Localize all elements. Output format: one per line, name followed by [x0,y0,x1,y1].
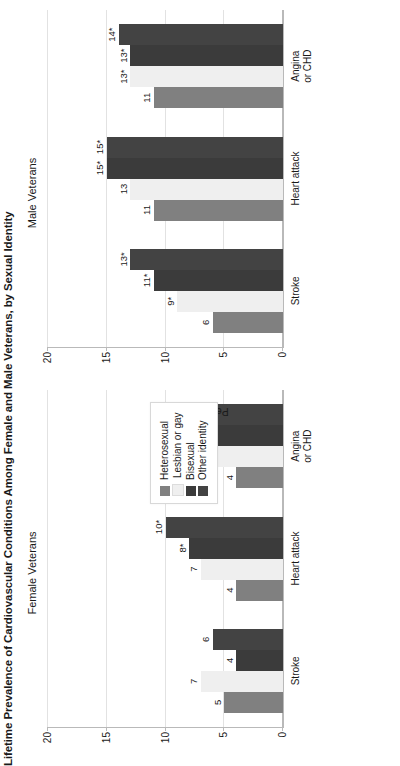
panel-male-veterans: Male Veterans Percentage 0510152069*11*1… [26,4,378,382]
bar[interactable] [119,24,284,45]
legend-swatch-icon [186,486,196,496]
legend-swatch-icon [160,486,170,496]
bar-value-label: 5 [213,700,223,705]
bar-slot: 13* [48,45,283,66]
bar[interactable] [107,158,283,179]
bar-slot: 15* [48,158,283,179]
y-tick-20: 20 [43,732,53,743]
y-tick-10: 10 [161,352,171,363]
y-tick-5: 5 [219,732,229,738]
legend-label: Heterosexual [160,421,170,480]
legend-item[interactable]: Bisexual [186,412,196,496]
bar-value-label: 13* [119,70,129,84]
bar[interactable] [154,87,283,108]
bar-groups: 69*11*13*Stroke111315*15*Heart attack111… [48,10,283,347]
bar-value-label: 7 [189,566,199,571]
bar[interactable] [154,270,283,291]
y-tick-mark-10 [165,727,166,731]
bar-slot: 7 [48,559,283,580]
bar-value-label: 10* [154,520,164,534]
bar[interactable] [154,200,283,221]
bar-group: 69*11*13*Stroke [48,235,283,347]
bar-slot: 4 [48,650,283,671]
bar[interactable] [236,650,283,671]
category-label: Angina or CHD [290,50,313,83]
bar[interactable] [236,467,283,488]
bar-slot: 8* [48,538,283,559]
bar-slot: 13* [48,249,283,270]
y-tick-mark-5 [223,727,224,731]
bar-value-label: 11* [142,274,152,288]
bar[interactable] [130,45,283,66]
bar-value-label: 15* [95,140,105,154]
category-label: Heart attack [290,532,302,586]
legend-label: Bisexual [186,442,196,480]
bar[interactable] [213,312,284,333]
y-tick-mark-20 [47,727,48,731]
y-tick-0: 0 [278,352,288,358]
bar-slot: 5 [48,692,283,713]
bar-slot: 6 [48,629,283,650]
bar[interactable] [130,179,283,200]
y-tick-5: 5 [219,352,229,358]
figure-canvas: Lifetime Prevalence of Cardiovascular Co… [0,0,400,766]
bar-slot: 14* [48,24,283,45]
y-tick-mark-15 [106,347,107,351]
bar-group: 478*10*Heart attack [48,502,283,614]
bar-slot: 11 [48,200,283,221]
bar-slot: 9* [48,291,283,312]
bar-value-label: 11 [142,93,152,103]
bar[interactable] [177,291,283,312]
bar-slot: 4 [48,580,283,601]
bar[interactable] [201,671,283,692]
plot-area-male: 0510152069*11*13*Stroke111315*15*Heart a… [48,10,284,348]
bar[interactable] [213,629,284,650]
legend-label: Lesbian or gay [173,412,183,478]
bar-value-label: 6 [201,320,211,325]
bar-slot: 11* [48,270,283,291]
bar-slot: 7 [48,671,283,692]
bar-slot: 13 [48,179,283,200]
legend-item[interactable]: Other identity [198,412,208,496]
legend-swatch-icon [172,484,184,496]
bar-value-label: 8* [178,544,188,553]
bar[interactable] [166,517,284,538]
figure-title: Lifetime Prevalence of Cardiovascular Co… [2,0,14,766]
bar[interactable] [130,66,283,87]
bar-group: 5746Stroke [48,615,283,727]
bar-value-label: 6 [201,637,211,642]
bar[interactable] [201,559,283,580]
legend-swatch-icon [198,486,208,496]
y-tick-mark-15 [106,727,107,731]
chart-viewport: Lifetime Prevalence of Cardiovascular Co… [0,0,400,766]
bar-slot: 11 [48,87,283,108]
category-label: Stroke [290,276,302,305]
y-tick-10: 10 [161,732,171,743]
bar-value-label: 11 [142,205,152,215]
bar-group: 1113*13*14*Angina or CHD [48,10,283,122]
category-label: Angina or CHD [290,430,313,463]
bar-slot: 15* [48,137,283,158]
bar-value-label: 13* [119,49,129,63]
bar-value-label: 15* [95,161,105,175]
y-tick-15: 15 [102,352,112,363]
y-tick-mark-5 [223,347,224,351]
category-label: Heart attack [290,152,302,206]
legend-item[interactable]: Lesbian or gay [172,412,184,496]
bar-value-label: 13 [119,184,129,195]
y-tick-15: 15 [102,732,112,743]
bar-value-label: 4 [225,475,235,480]
panel-title-female: Female Veterans [26,384,38,762]
category-label: Stroke [290,656,302,685]
bar[interactable] [236,580,283,601]
bar[interactable] [107,137,283,158]
y-tick-mark-0 [282,727,283,731]
bar[interactable] [130,249,283,270]
bar[interactable] [224,692,283,713]
legend-label: Other identity [198,421,208,480]
y-tick-mark-20 [47,347,48,351]
bar[interactable] [189,538,283,559]
legend-item[interactable]: Heterosexual [160,412,170,496]
y-tick-mark-0 [282,347,283,351]
y-tick-0: 0 [278,732,288,738]
